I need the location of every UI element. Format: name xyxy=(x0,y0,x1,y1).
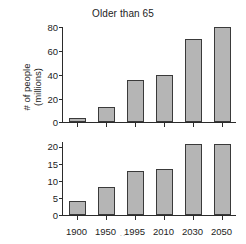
y-tick-label: 20 xyxy=(47,142,58,152)
bar-1950 xyxy=(98,187,116,215)
x-tick-mark xyxy=(164,216,165,220)
y-tick-mark xyxy=(59,147,63,148)
bar-1900 xyxy=(69,118,87,122)
plot-area-top xyxy=(62,28,236,123)
x-tick-mark xyxy=(193,123,194,127)
y-axis-label-line-1: # of people xyxy=(21,64,32,111)
y-tick-label: 20 xyxy=(47,95,58,105)
bar-1900 xyxy=(69,201,87,215)
plot-area-bottom xyxy=(62,142,236,216)
y-tick-mark xyxy=(59,215,63,216)
y-tick-mark xyxy=(59,164,63,165)
bar-1995 xyxy=(127,80,145,122)
x-tick-mark xyxy=(135,123,136,127)
y-tick-mark xyxy=(59,75,63,76)
y-axis-ticklabels-top: 020406080 xyxy=(38,24,58,132)
y-tick-label: 80 xyxy=(47,23,58,33)
figure-older-than-65: Older than 65 # of people (millions) 020… xyxy=(0,0,246,244)
x-tick-mark xyxy=(164,123,165,127)
bar-1995 xyxy=(127,171,145,215)
panel-number-of-people: # of people (millions) 020406080 xyxy=(0,24,246,132)
bar-2010 xyxy=(156,169,174,215)
chart-title: Older than 65 xyxy=(0,8,246,19)
y-axis-ticklabels-bottom: 05101520 xyxy=(38,138,58,244)
bar-2030 xyxy=(185,144,203,215)
y-tick-label: 5 xyxy=(53,194,58,204)
x-tick-mark xyxy=(106,216,107,220)
y-tick-mark xyxy=(59,181,63,182)
x-tick-mark xyxy=(106,123,107,127)
x-tick-mark xyxy=(135,216,136,220)
bar-2050 xyxy=(214,144,232,215)
y-tick-mark xyxy=(59,51,63,52)
y-tick-label: 60 xyxy=(47,47,58,57)
x-tick-mark xyxy=(77,216,78,220)
y-tick-mark xyxy=(59,122,63,123)
y-tick-label: 40 xyxy=(47,71,58,81)
y-tick-mark xyxy=(59,99,63,100)
x-tick-mark xyxy=(193,216,194,220)
y-tick-label: 0 xyxy=(53,211,58,221)
y-tick-mark xyxy=(59,27,63,28)
x-tick-mark xyxy=(222,216,223,220)
panel-percent-of-population: % of population 05101520 190019501995201… xyxy=(0,138,246,244)
bar-2030 xyxy=(185,39,203,122)
bar-2050 xyxy=(214,27,232,122)
y-tick-label: 0 xyxy=(53,118,58,128)
x-tick-mark xyxy=(77,123,78,127)
footer-mark: ·· xyxy=(0,232,246,239)
y-tick-mark xyxy=(59,198,63,199)
x-tick-mark xyxy=(222,123,223,127)
y-tick-label: 15 xyxy=(47,160,58,170)
bar-1950 xyxy=(98,107,116,122)
bar-2010 xyxy=(156,75,174,123)
y-tick-label: 10 xyxy=(47,177,58,187)
